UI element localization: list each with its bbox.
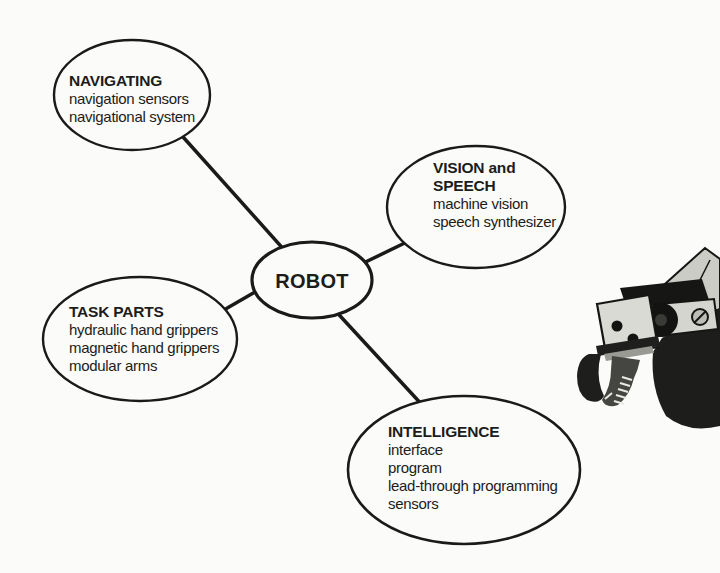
node-item: navigational system	[69, 108, 195, 126]
node-item: sensors	[388, 495, 558, 513]
node-navigating: NAVIGATING navigation sensors navigation…	[69, 72, 195, 126]
node-intelligence: INTELLIGENCE interface program lead-thro…	[388, 423, 558, 513]
node-item: modular arms	[69, 357, 219, 375]
center-node-label: ROBOT	[275, 270, 349, 293]
node-item: machine vision	[433, 195, 556, 213]
node-item: speech synthesizer	[433, 213, 556, 231]
gripper-finger-right	[602, 356, 640, 406]
node-item: hydraulic hand grippers	[69, 321, 219, 339]
robot-gripper-illustration	[577, 248, 720, 428]
node-title-navigating: NAVIGATING	[69, 72, 195, 90]
node-item: navigation sensors	[69, 90, 195, 108]
node-item: program	[388, 459, 558, 477]
node-task-parts: TASK PARTS hydraulic hand grippers magne…	[69, 303, 219, 375]
node-title-vision-speech-line1: VISION and	[433, 159, 556, 177]
connector-intelligence	[330, 305, 425, 408]
node-vision-speech: VISION and SPEECH machine vision speech …	[433, 159, 556, 231]
diagram-canvas: NAVIGATING navigation sensors navigation…	[0, 0, 720, 573]
gripper-bracket-hole-1	[612, 321, 623, 332]
node-item: lead-through programming	[388, 477, 558, 495]
node-title-vision-speech-line2: SPEECH	[433, 177, 556, 195]
gripper-finger-left	[577, 354, 604, 402]
node-item: interface	[388, 441, 558, 459]
node-title-task-parts: TASK PARTS	[69, 303, 219, 321]
node-title-intelligence: INTELLIGENCE	[388, 423, 558, 441]
connector-navigating	[175, 128, 295, 262]
gripper-joint-hub	[655, 314, 667, 326]
node-item: magnetic hand grippers	[69, 339, 219, 357]
